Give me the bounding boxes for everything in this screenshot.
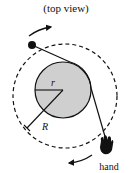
ball [28, 41, 36, 49]
hand-label: hand [99, 161, 118, 172]
string-segment-lower [91, 88, 106, 140]
inner-radius-label: r [51, 77, 55, 88]
rotation-arrow-bottom-icon [69, 155, 92, 163]
diagram-title: (top view) [43, 2, 89, 15]
hand-icon [100, 135, 113, 154]
diagram-canvas: (top view) r R hand [0, 0, 129, 173]
string-segment-upper [32, 45, 70, 62]
outer-radius-label: R [41, 121, 48, 132]
rotation-arrow-top-icon [29, 27, 51, 36]
